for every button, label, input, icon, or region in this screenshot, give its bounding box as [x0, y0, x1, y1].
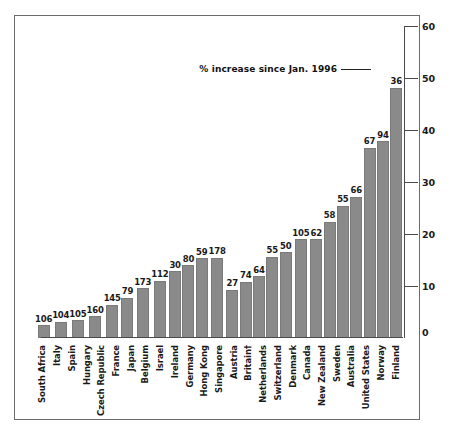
y-axis-tick-label: 50 — [422, 73, 435, 84]
y-axis-tick — [404, 130, 418, 131]
category-slot: Japan — [123, 343, 138, 425]
bar-value-label: 59 — [196, 248, 207, 257]
category-slot: Germany — [182, 343, 197, 425]
bar — [295, 239, 307, 338]
bar-slot: 55 — [336, 26, 349, 338]
bar — [324, 222, 336, 338]
category-label: France — [111, 345, 121, 376]
bar-value-label: 105 — [292, 229, 309, 238]
category-slot: Hungary — [79, 343, 94, 425]
category-label: Ireland — [170, 345, 180, 378]
category-label: United States — [361, 345, 371, 409]
bar-value-label: 58 — [324, 211, 335, 220]
category-label: Austria — [229, 345, 239, 379]
bar-value-label: 160 — [86, 306, 103, 315]
category-slot: Sweden — [329, 343, 344, 425]
category-label: Germany — [185, 345, 195, 387]
bar-value-label: 36 — [391, 77, 402, 86]
bar-slot: 105 — [292, 26, 309, 338]
bar-slot: 30 — [168, 26, 181, 338]
y-axis-tick-label: 40 — [422, 125, 435, 136]
category-slot: Switzerland — [271, 343, 286, 425]
bar-slot: 58 — [323, 26, 336, 338]
bar — [350, 197, 362, 338]
chart-screenshot: % increase since Jan. 1996 1061041051601… — [0, 0, 465, 437]
bar-series: 1061041051601457917311230805917827746455… — [35, 26, 403, 338]
bar-slot: 106 — [35, 26, 52, 338]
bar-slot: 173 — [134, 26, 151, 338]
bar — [121, 298, 133, 338]
category-slot: New Zealand — [315, 343, 330, 425]
bar-slot: 80 — [182, 26, 195, 338]
bar — [72, 320, 84, 338]
bar — [253, 276, 265, 338]
bar-slot: 36 — [390, 26, 403, 338]
category-label: Belgium — [140, 345, 150, 383]
y-axis: 0102030405060 — [404, 26, 420, 338]
category-slot: Britain† — [241, 343, 256, 425]
bar-value-label: 106 — [35, 315, 52, 324]
y-axis-tick — [404, 286, 418, 287]
bar-value-label: 104 — [52, 311, 69, 320]
y-axis-tick — [404, 26, 418, 27]
bar — [55, 322, 67, 338]
bar-slot: 27 — [226, 26, 239, 338]
category-label: Italy — [52, 345, 62, 366]
category-label: Japan — [126, 345, 136, 371]
bar-value-label: 30 — [169, 261, 180, 270]
category-label: Czech Republic — [96, 345, 106, 416]
bar — [169, 271, 181, 338]
bar — [182, 265, 194, 338]
bar-slot: 104 — [52, 26, 69, 338]
bar-value-label: 80 — [183, 255, 194, 264]
bar-value-label: 66 — [350, 186, 361, 195]
bar — [266, 257, 278, 338]
category-label: Spain — [67, 345, 77, 371]
x-axis-category-labels: South AfricaItalySpainHungaryCzech Repub… — [35, 343, 403, 425]
bar-slot: 112 — [151, 26, 168, 338]
y-axis-tick-label: 20 — [422, 229, 435, 240]
bar — [337, 206, 349, 338]
y-axis-tick — [404, 182, 418, 183]
bar — [364, 148, 376, 338]
y-axis-tick-label: 0 — [422, 327, 429, 338]
bar-value-label: 74 — [240, 271, 251, 280]
bar-value-label: 112 — [151, 270, 168, 279]
y-axis-tick — [404, 234, 418, 235]
bar-value-label: 79 — [122, 287, 133, 296]
bar — [89, 316, 101, 338]
category-slot: France — [109, 343, 124, 425]
y-axis-tick-label: 60 — [422, 21, 435, 32]
category-label: Netherlands — [258, 345, 268, 403]
category-label: Singapore — [214, 345, 224, 393]
bar-value-label: 55 — [337, 195, 348, 204]
bar-value-label: 173 — [134, 278, 151, 287]
category-slot: United States — [359, 343, 374, 425]
bar-slot: 94 — [376, 26, 389, 338]
category-slot: Canada — [300, 343, 315, 425]
bar-value-label: 94 — [377, 131, 388, 140]
bar — [137, 288, 149, 338]
category-slot: Israel — [153, 343, 168, 425]
bar-slot: 160 — [86, 26, 103, 338]
category-slot: South Africa — [35, 343, 50, 425]
bar-value-label: 27 — [227, 279, 238, 288]
x-axis-line — [41, 337, 403, 338]
category-label: Hong Kong — [199, 345, 209, 397]
category-label: Israel — [155, 345, 165, 371]
bar-slot: 55 — [266, 26, 279, 338]
category-slot: Italy — [50, 343, 65, 425]
bar — [377, 141, 389, 338]
bar-value-label: 145 — [104, 294, 121, 303]
category-label: Sweden — [332, 345, 342, 382]
y-axis-tick-label: 30 — [422, 177, 435, 188]
y-axis-tick-label: 10 — [422, 281, 435, 292]
bar — [106, 305, 118, 338]
bar — [390, 88, 402, 338]
bar — [196, 258, 208, 338]
category-label: Canada — [302, 345, 312, 380]
bar-value-label: 105 — [69, 310, 86, 319]
y-axis-tick — [404, 78, 418, 79]
bar-value-label: 67 — [364, 137, 375, 146]
bar-value-label: 55 — [267, 246, 278, 255]
